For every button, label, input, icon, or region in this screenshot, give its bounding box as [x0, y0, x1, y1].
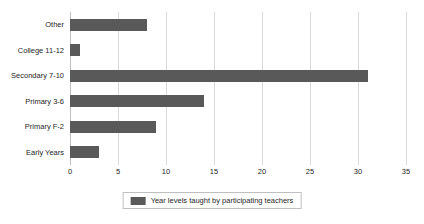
value-axis-tick-label: 20: [258, 167, 266, 176]
table-row: [70, 12, 406, 38]
value-axis-tick-label: 10: [162, 167, 170, 176]
category-label: Early Years: [0, 140, 64, 166]
table-row: [70, 140, 406, 166]
bar: [70, 121, 156, 133]
value-axis: 05101520253035: [70, 167, 406, 179]
category-label: Primary 3-6: [0, 89, 64, 115]
table-row: [70, 38, 406, 64]
value-axis-tick-label: 15: [210, 167, 218, 176]
legend-label: Year levels taught by participating teac…: [151, 196, 294, 205]
value-axis-tick-label: 35: [402, 167, 410, 176]
table-row: [70, 63, 406, 89]
bar: [70, 19, 147, 31]
table-row: [70, 114, 406, 140]
bar: [70, 146, 99, 158]
legend: Year levels taught by participating teac…: [123, 192, 302, 209]
value-axis-tick-label: 30: [354, 167, 362, 176]
category-axis: Other College 11-12 Secondary 7-10 Prima…: [0, 12, 64, 165]
table-row: [70, 89, 406, 115]
bar: [70, 70, 368, 82]
value-axis-tick-label: 5: [116, 167, 120, 176]
category-label: College 11-12: [0, 38, 64, 64]
bar: [70, 44, 80, 56]
bar: [70, 95, 204, 107]
bar-rows: [70, 12, 406, 165]
gridline: [406, 12, 407, 165]
category-label: Secondary 7-10: [0, 63, 64, 89]
category-label: Other: [0, 12, 64, 38]
plot-area: [70, 12, 406, 165]
value-axis-tick-label: 25: [306, 167, 314, 176]
value-axis-tick-label: 0: [68, 167, 72, 176]
legend-swatch-icon: [131, 197, 146, 205]
category-label: Primary F-2: [0, 114, 64, 140]
bar-chart: Other College 11-12 Secondary 7-10 Prima…: [0, 0, 424, 224]
